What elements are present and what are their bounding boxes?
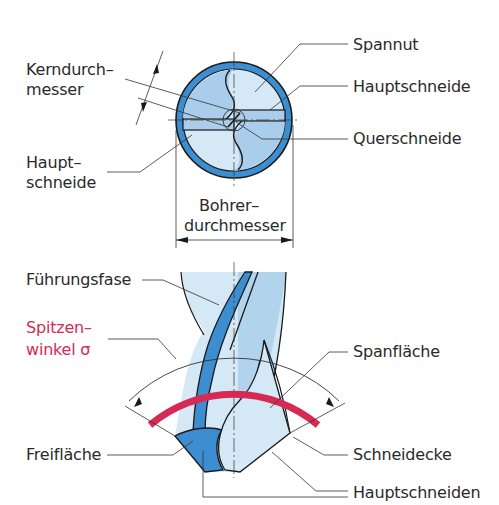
label-bohrerdurchmesser-line2: durchmesser [184, 216, 286, 236]
label-spannut: Spannut [353, 35, 418, 55]
label-hauptschneide-right: Hauptschneide [353, 77, 471, 97]
label-hauptschneide-left-line1: Haupt– [26, 153, 81, 173]
label-spanflaeche: Spanfläche [353, 342, 440, 362]
drill-side-view [107, 262, 348, 497]
label-kerndurchmesser-line2: messer [26, 80, 83, 100]
label-hauptschneide-left-line2: schneide [26, 173, 96, 193]
label-fuehrungsfase: Führungsfase [26, 270, 131, 290]
label-schneidecke: Schneidecke [353, 445, 452, 465]
label-kerndurchmesser-line1: Kerndurch– [26, 60, 113, 80]
label-spitzenwinkel-line1: Spitzen– [26, 318, 92, 338]
label-freiflaeche: Freifläche [26, 445, 101, 465]
label-bohrerdurchmesser-line1: Bohrer– [199, 196, 259, 216]
label-hauptschneiden: Hauptschneiden [353, 483, 480, 503]
label-querschneide: Querschneide [353, 129, 461, 149]
label-spitzenwinkel-line2: winkel σ [26, 340, 90, 360]
